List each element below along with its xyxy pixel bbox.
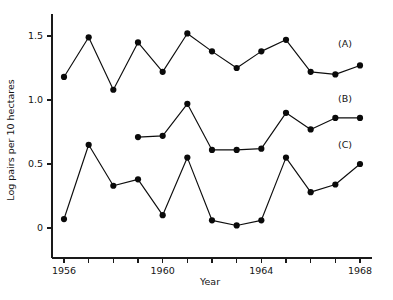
x-axis-ticks [64, 258, 360, 263]
data-point-marker [234, 65, 240, 71]
data-point-marker [308, 189, 314, 195]
data-point-marker [184, 101, 190, 107]
y-tick-label: 0 [37, 222, 43, 233]
y-tick-label: 0.5 [28, 158, 43, 169]
y-tick-label: 1.0 [28, 94, 43, 105]
y-axis-tick-labels: 00.51.01.5 [28, 30, 43, 233]
data-point-marker [61, 216, 67, 222]
data-point-marker [209, 48, 215, 54]
y-axis-title: Log pairs per 10 hectares [5, 79, 16, 200]
data-point-marker [283, 37, 289, 43]
data-point-marker [184, 155, 190, 161]
x-tick-label: 1956 [52, 265, 76, 276]
data-point-marker [135, 39, 141, 45]
series-line-a [64, 33, 360, 89]
series-line-c [64, 145, 360, 226]
x-tick-label: 1964 [249, 265, 273, 276]
series-line-b [138, 104, 360, 150]
line-chart-canvas: 00.51.01.5 1956196019641968 Log pairs pe… [0, 0, 393, 300]
series-label-c: (C) [338, 139, 352, 150]
y-axis-ticks [47, 36, 52, 228]
x-tick-label: 1968 [348, 265, 372, 276]
data-point-marker [258, 48, 264, 54]
data-point-marker [209, 147, 215, 153]
data-series-group [61, 30, 363, 228]
chart-figure: 00.51.01.5 1956196019641968 Log pairs pe… [0, 0, 393, 300]
data-point-marker [135, 176, 141, 182]
data-point-marker [160, 69, 166, 75]
series-label-b: (B) [338, 93, 352, 104]
data-point-marker [160, 212, 166, 218]
data-point-marker [283, 110, 289, 116]
data-point-marker [234, 222, 240, 228]
data-point-marker [234, 147, 240, 153]
data-point-marker [184, 30, 190, 36]
x-tick-label: 1960 [151, 265, 175, 276]
data-point-marker [110, 87, 116, 93]
data-point-marker [209, 217, 215, 223]
x-axis-tick-labels: 1956196019641968 [52, 265, 372, 276]
data-point-marker [86, 34, 92, 40]
data-point-marker [357, 62, 363, 68]
data-point-marker [258, 217, 264, 223]
data-point-marker [61, 74, 67, 80]
data-point-marker [332, 71, 338, 77]
data-point-marker [332, 115, 338, 121]
data-point-marker [258, 146, 264, 152]
data-point-marker [283, 155, 289, 161]
series-label-a: (A) [338, 38, 352, 49]
data-point-marker [86, 142, 92, 148]
data-point-marker [357, 115, 363, 121]
series-inline-labels: (A)(B)(C) [338, 38, 352, 150]
data-point-marker [308, 69, 314, 75]
data-point-marker [357, 161, 363, 167]
x-axis-title: Year [199, 276, 220, 287]
data-point-marker [110, 183, 116, 189]
data-point-marker [332, 181, 338, 187]
data-point-marker [160, 133, 166, 139]
data-point-marker [308, 126, 314, 132]
y-tick-label: 1.5 [28, 30, 43, 41]
data-point-marker [135, 134, 141, 140]
